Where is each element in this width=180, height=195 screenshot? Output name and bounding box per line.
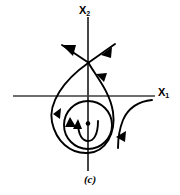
inner-u-arrow-left-icon bbox=[73, 119, 82, 129]
phase-portrait-svg bbox=[0, 0, 180, 195]
x1-axis-label-subscript: 1 bbox=[165, 92, 169, 99]
phase-portrait-figure: X2 X1 (c) bbox=[0, 0, 180, 195]
inner-circle-arrow-left-icon bbox=[65, 117, 76, 127]
inner-orbit-arrowhead-group bbox=[65, 117, 76, 127]
center-point-dot bbox=[86, 121, 91, 126]
innermost-orbit-arrowhead-group bbox=[73, 119, 82, 129]
x1-axis-label: X1 bbox=[158, 87, 169, 98]
x2-axis-label: X2 bbox=[79, 5, 90, 16]
separatrix-arrow-upper-left-icon bbox=[62, 45, 76, 56]
loop-arrow-left-icon bbox=[53, 108, 61, 119]
x2-axis-label-subscript: 2 bbox=[86, 10, 90, 17]
figure-caption: (c) bbox=[0, 174, 180, 185]
